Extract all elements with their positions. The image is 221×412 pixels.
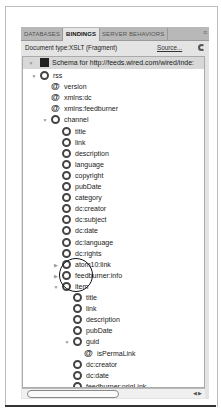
element-icon [73, 337, 82, 346]
tab-bindings[interactable]: Bindings [62, 28, 100, 41]
source-link[interactable]: Source... [157, 41, 182, 55]
element-icon [51, 115, 60, 124]
element-icon [73, 315, 82, 324]
element-icon [62, 226, 71, 235]
document-type-row: Document type:XSLT (Fragment) Source... [21, 41, 209, 55]
tab-server-behaviors[interactable]: Server Behaviors [99, 28, 168, 40]
schema-tree[interactable]: ▼ Schema for http://feeds.wired.com/wire… [22, 56, 205, 388]
tab-bar: Databases Bindings Server Behaviors ≡ [21, 27, 209, 41]
expand-triangle-icon[interactable]: ▼ [28, 57, 34, 69]
refresh-icon[interactable] [198, 44, 205, 51]
scroll-arrows[interactable]: ◀ ▶ [193, 389, 202, 398]
horizontal-scrollbar[interactable]: ◀ ▶ [22, 388, 205, 398]
element-icon [62, 238, 71, 247]
element-icon [62, 215, 71, 224]
panel-menu-icon[interactable]: ≡ [203, 29, 207, 36]
element-icon [62, 193, 71, 202]
scrollbar-thumb[interactable] [27, 390, 119, 398]
element-icon [62, 249, 71, 258]
tree-node[interactable]: feedburner:origLink [23, 381, 204, 388]
attribute-icon: @ [84, 349, 93, 358]
element-icon [62, 182, 71, 191]
attribute-icon: @ [51, 93, 60, 102]
element-icon [62, 204, 71, 213]
highlight-circle-annotation [59, 258, 93, 292]
element-icon [73, 304, 82, 313]
attribute-icon: @ [51, 104, 60, 113]
tab-databases[interactable]: Databases [21, 28, 64, 40]
element-icon [73, 293, 82, 302]
element-icon [62, 171, 71, 180]
element-icon [62, 138, 71, 147]
element-icon [73, 326, 82, 335]
bindings-panel: Databases Bindings Server Behaviors ≡ Do… [21, 27, 209, 399]
element-icon [62, 149, 71, 158]
schema-document-icon [40, 58, 49, 67]
element-icon [73, 371, 82, 380]
frame-shadow [5, 405, 216, 407]
schema-row[interactable]: ▼ Schema for http://feeds.wired.com/wire… [23, 57, 204, 69]
schema-label: Schema for http://feeds.wired.com/wired/… [52, 57, 194, 69]
attribute-icon: @ [51, 82, 60, 91]
element-icon [62, 127, 71, 136]
tree-node-label: feedburner:origLink [86, 381, 146, 388]
document-type-label: Document type:XSLT (Fragment) [25, 41, 117, 55]
element-icon [73, 360, 82, 369]
element-icon [40, 71, 49, 80]
element-icon [62, 160, 71, 169]
